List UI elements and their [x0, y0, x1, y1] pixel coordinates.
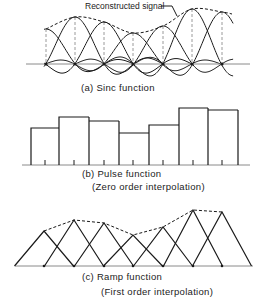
sample-point [43, 265, 46, 268]
sample-point [44, 62, 47, 65]
sample-point [73, 62, 76, 65]
sample-point [192, 265, 195, 268]
caption-a: (a) Sinc function [81, 82, 155, 93]
reconstructed-signal-curve [46, 8, 232, 33]
pulse-outline [31, 108, 238, 165]
caption-c-line2: (First order interpolation) [101, 286, 213, 297]
ramp-kernel [134, 227, 193, 266]
sinc-kernels [44, 9, 233, 76]
caption-b-line2: (Zero order interpolation) [92, 181, 205, 192]
ramp-triangles [15, 210, 252, 266]
sample-point [162, 265, 165, 268]
sinc-kernel [44, 17, 162, 74]
caption-c-line1: (c) Ramp function [82, 271, 162, 282]
ramp-kernel [164, 210, 223, 266]
sample-point [73, 265, 76, 268]
panel-ramp: (c) Ramp function (First order interpola… [15, 210, 254, 297]
sample-point [102, 62, 105, 65]
sample-point [132, 265, 135, 268]
panel-pulse: (b) Pulse function (Zero order interpola… [22, 108, 250, 192]
sample-point [220, 62, 223, 65]
ramp-kernel [15, 231, 74, 266]
caption-b-line1: (b) Pulse function [82, 168, 161, 179]
sinc-kernel [44, 22, 191, 73]
sample-point [221, 265, 224, 268]
sample-point [131, 62, 134, 65]
reconstructed-signal-label: Reconstructed signal [85, 1, 164, 11]
sinc-kernel [44, 29, 133, 72]
sample-point [190, 62, 193, 65]
pulse-bars [31, 108, 238, 165]
sinc-kernel [75, 26, 233, 72]
sample-point [161, 62, 164, 65]
panel-sinc: Reconstructed signal (a) Sinc function [26, 1, 250, 93]
sample-point [103, 265, 106, 268]
ramp-kernel [193, 212, 252, 266]
interpolation-diagram: Reconstructed signal (a) Sinc function (… [0, 0, 263, 300]
sample-ticks-b [45, 160, 222, 165]
